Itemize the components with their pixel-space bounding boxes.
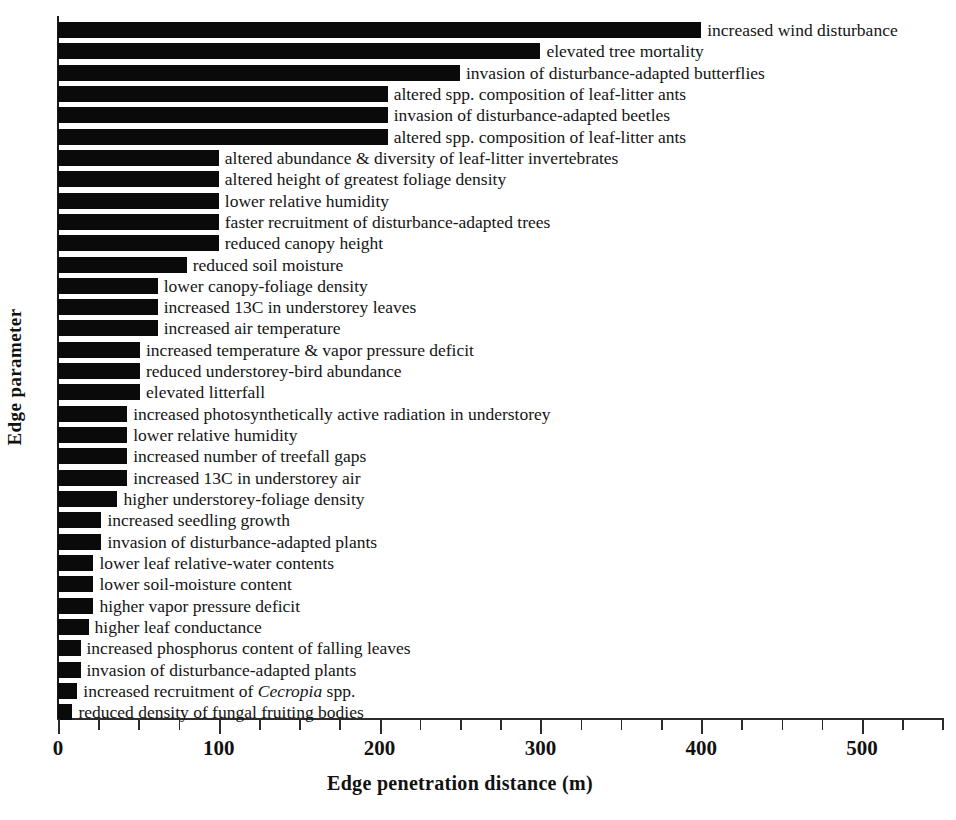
bar	[58, 214, 219, 230]
x-tick-minor	[581, 719, 583, 730]
bar-row: increased seedling growth	[0, 510, 890, 531]
x-tick-minor	[98, 719, 100, 730]
bar-label: elevated litterfall	[146, 382, 265, 403]
bar-label: higher vapor pressure deficit	[99, 596, 300, 617]
bar-row: reduced density of fungal fruiting bodie…	[0, 702, 890, 723]
bar-label: reduced canopy height	[225, 233, 383, 254]
x-tick-major	[219, 719, 221, 734]
bar-label: altered height of greatest foliage densi…	[225, 169, 506, 190]
bar	[58, 107, 388, 123]
x-tick-minor	[138, 719, 140, 730]
bar	[58, 320, 158, 336]
bar-label: altered spp. composition of leaf-litter …	[394, 127, 687, 148]
bar-label: invasion of disturbance-adapted beetles	[394, 105, 671, 126]
bar	[58, 86, 388, 102]
bar-label: increased 13C in understorey leaves	[164, 297, 417, 318]
bar-row: increased 13C in understorey leaves	[0, 297, 890, 318]
bar	[58, 299, 158, 315]
x-tick-major	[540, 719, 542, 734]
bar-label: increased air temperature	[164, 318, 341, 339]
x-tick-minor	[299, 719, 301, 730]
bar	[58, 43, 540, 59]
bar-label: faster recruitment of disturbance-adapte…	[225, 212, 551, 233]
bar-label: increased number of treefall gaps	[133, 446, 366, 467]
bar	[58, 512, 101, 528]
x-tick-minor	[741, 719, 743, 730]
bar-label: reduced density of fungal fruiting bodie…	[78, 702, 363, 723]
bar-row: reduced canopy height	[0, 233, 890, 254]
bar-row: increased wind disturbance	[0, 20, 890, 41]
x-tick-minor	[420, 719, 422, 730]
x-tick-label: 100	[203, 736, 235, 761]
bar-label: increased temperature & vapor pressure d…	[146, 340, 474, 361]
x-tick-minor	[500, 719, 502, 730]
x-tick-minor	[661, 719, 663, 730]
bar-row: altered spp. composition of leaf-litter …	[0, 127, 890, 148]
bar-row: lower soil-moisture content	[0, 574, 890, 595]
bar	[58, 384, 140, 400]
bar	[58, 65, 460, 81]
bar-row: reduced soil moisture	[0, 255, 890, 276]
x-tick-minor	[902, 719, 904, 730]
bar-label: invasion of disturbance-adapted plants	[107, 532, 377, 553]
x-tick-minor	[339, 719, 341, 730]
bar-row: faster recruitment of disturbance-adapte…	[0, 212, 890, 233]
x-tick-minor	[179, 719, 181, 730]
x-tick-minor	[259, 719, 261, 730]
bar-row: increased phosphorus content of falling …	[0, 638, 890, 659]
x-tick-label: 0	[53, 736, 64, 761]
bar-label: invasion of disturbance-adapted plants	[87, 660, 357, 681]
bar-label: higher understorey-foliage density	[123, 489, 364, 510]
bar-row: higher leaf conductance	[0, 617, 890, 638]
bar-row: lower relative humidity	[0, 425, 890, 446]
bar-label: reduced soil moisture	[193, 255, 344, 276]
x-tick-label: 200	[364, 736, 396, 761]
bar	[58, 640, 81, 656]
bar-row: increased temperature & vapor pressure d…	[0, 340, 890, 361]
bar-label: increased recruitment of Cecropia spp.	[83, 681, 355, 702]
bar	[58, 342, 140, 358]
x-tick-minor	[621, 719, 623, 730]
bar-row: altered spp. composition of leaf-litter …	[0, 84, 890, 105]
bar	[58, 555, 93, 571]
bar-label: reduced understorey-bird abundance	[146, 361, 402, 382]
bar	[58, 22, 701, 38]
bar	[58, 576, 93, 592]
x-tick-major	[862, 719, 864, 734]
bar	[58, 491, 117, 507]
bar-label: lower relative humidity	[225, 191, 389, 212]
bar-label: lower leaf relative-water contents	[99, 553, 334, 574]
bar	[58, 406, 127, 422]
x-tick-major	[701, 719, 703, 734]
x-axis-title: Edge penetration distance (m)	[58, 772, 862, 795]
x-tick-minor	[942, 719, 944, 730]
bar-row: altered abundance & diversity of leaf-li…	[0, 148, 890, 169]
bar-row: lower canopy-foliage density	[0, 276, 890, 297]
bar-label: increased photosynthetically active radi…	[133, 404, 550, 425]
bar	[58, 363, 140, 379]
bar	[58, 235, 219, 251]
bar	[58, 534, 101, 550]
bar	[58, 683, 77, 699]
caption-sliver	[0, 806, 956, 820]
bar-label: increased seedling growth	[107, 510, 290, 531]
bar	[58, 662, 81, 678]
bar-row: invasion of disturbance-adapted plants	[0, 532, 890, 553]
bar-label: invasion of disturbance-adapted butterfl…	[466, 63, 765, 84]
x-tick-label: 400	[685, 736, 717, 761]
bar-row: reduced understorey-bird abundance	[0, 361, 890, 382]
bar	[58, 470, 127, 486]
bar-label: altered abundance & diversity of leaf-li…	[225, 148, 619, 169]
bar-row: increased air temperature	[0, 318, 890, 339]
bar-row: elevated litterfall	[0, 382, 890, 403]
bar-row: increased number of treefall gaps	[0, 446, 890, 467]
bar	[58, 427, 127, 443]
x-tick-minor	[460, 719, 462, 730]
x-tick-label: 500	[846, 736, 878, 761]
bar-label: lower relative humidity	[133, 425, 297, 446]
bar-row: higher vapor pressure deficit	[0, 596, 890, 617]
bar	[58, 150, 219, 166]
bar-label: lower soil-moisture content	[99, 574, 291, 595]
bar-row: increased 13C in understorey air	[0, 468, 890, 489]
bar-label: lower canopy-foliage density	[164, 276, 368, 297]
